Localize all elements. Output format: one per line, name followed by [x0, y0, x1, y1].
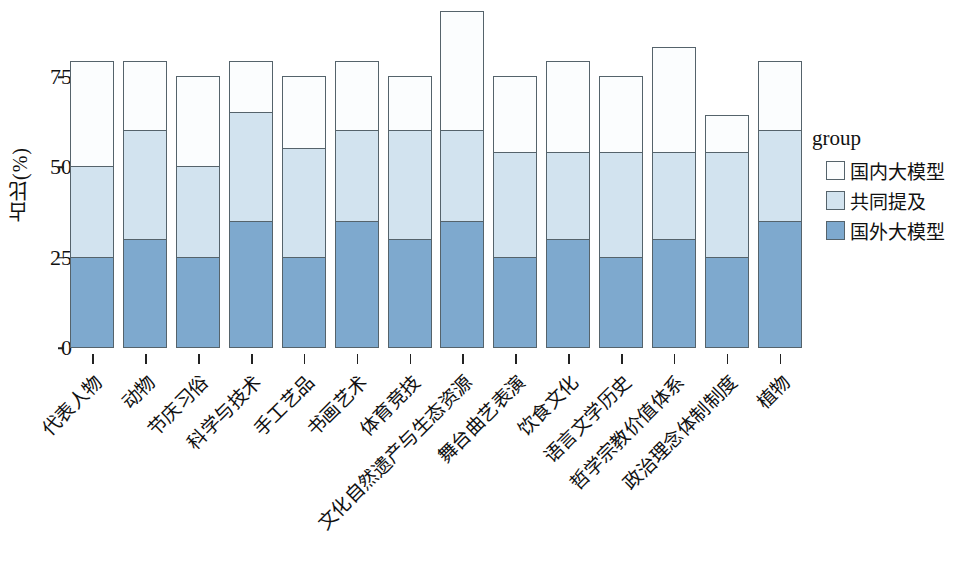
bar-9 [493, 77, 537, 348]
y-axis-tick-mark [58, 347, 64, 349]
bar-segment-domestic-model [282, 76, 326, 150]
bar-segment-foreign-model [440, 220, 484, 348]
y-axis-tick-mark [58, 167, 64, 169]
x-axis-tick-mark [198, 354, 200, 364]
x-axis: 代表人物动物节庆习俗科学与技术手工艺品书画艺术体育竞技文化自然遗产与生态资源舞台… [66, 348, 806, 567]
bar-segment-domestic-model [493, 76, 537, 153]
bar-5 [282, 77, 326, 348]
bar-segment-domestic-model [70, 61, 114, 167]
bar-segment-both-mentioned [388, 130, 432, 240]
bar-8 [440, 12, 484, 348]
bar-7 [388, 77, 432, 348]
y-axis-tick-mark [58, 76, 64, 78]
bar-3 [176, 77, 220, 348]
bar-segment-both-mentioned [758, 130, 802, 222]
legend-item-label: 国内大模型 [850, 157, 945, 184]
legend-item-label: 共同提及 [850, 187, 926, 214]
legend: group 国内大模型共同提及国外大模型 [812, 126, 958, 247]
x-axis-tick-mark [727, 354, 729, 364]
legend-item[interactable]: 国内大模型 [826, 157, 958, 184]
y-axis-tick-mark [58, 257, 64, 259]
bar-segment-domestic-model [388, 76, 432, 132]
bar-segment-both-mentioned [705, 152, 749, 258]
legend-item-list: 国内大模型共同提及国外大模型 [812, 157, 958, 244]
x-axis-tick-mark [674, 354, 676, 364]
bar-segment-foreign-model [546, 238, 590, 348]
bar-segment-domestic-model [176, 76, 220, 168]
legend-item[interactable]: 共同提及 [826, 187, 958, 214]
legend-item[interactable]: 国外大模型 [826, 217, 958, 244]
legend-item-label: 国外大模型 [850, 217, 945, 244]
bar-segment-both-mentioned [123, 130, 167, 240]
y-axis-tick-group: 7550250 [0, 0, 72, 567]
legend-swatch-icon [826, 161, 845, 180]
bar-2 [123, 63, 167, 348]
plot-area [66, 0, 806, 348]
bar-segment-foreign-model [282, 256, 326, 348]
bar-segment-domestic-model [123, 61, 167, 131]
x-axis-tick-mark [568, 354, 570, 364]
bar-segment-both-mentioned [70, 166, 114, 258]
x-axis-tick-mark [304, 354, 306, 364]
bar-segment-both-mentioned [599, 152, 643, 258]
bar-segment-both-mentioned [335, 130, 379, 222]
x-axis-tick-mark [515, 354, 517, 364]
x-axis-label: 植物 [749, 368, 795, 414]
bar-segment-both-mentioned [546, 152, 590, 240]
bar-segment-foreign-model [388, 238, 432, 348]
bar-6 [335, 63, 379, 348]
legend-swatch-icon [826, 221, 845, 240]
x-axis-tick-mark [251, 354, 253, 364]
x-axis-tick-mark [357, 354, 359, 364]
bar-13 [705, 117, 749, 348]
bar-segment-both-mentioned [440, 130, 484, 222]
bar-segment-domestic-model [599, 76, 643, 153]
x-axis-tick-mark [410, 354, 412, 364]
legend-swatch-icon [826, 191, 845, 210]
bar-4 [229, 63, 273, 348]
bar-segment-domestic-model [546, 61, 590, 153]
bar-segment-domestic-model [758, 61, 802, 131]
x-axis-tick-mark [462, 354, 464, 364]
bar-segment-foreign-model [652, 238, 696, 348]
bar-11 [599, 77, 643, 348]
stacked-bar-chart: 占比(%) 7550250 代表人物动物节庆习俗科学与技术手工艺品书画艺术体育竞… [0, 0, 958, 567]
bar-segment-foreign-model [229, 220, 273, 348]
bar-segment-foreign-model [599, 256, 643, 348]
bar-segment-foreign-model [176, 256, 220, 348]
bar-14 [758, 63, 802, 348]
legend-title: group [812, 126, 958, 151]
bar-segment-both-mentioned [282, 148, 326, 258]
bar-segment-both-mentioned [652, 152, 696, 240]
bar-10 [546, 63, 590, 348]
bar-segment-foreign-model [335, 220, 379, 348]
bar-1 [70, 63, 114, 348]
bar-segment-domestic-model [440, 11, 484, 132]
x-axis-tick-mark [145, 354, 147, 364]
bar-segment-domestic-model [229, 61, 273, 113]
bar-segment-foreign-model [493, 256, 537, 348]
x-axis-tick-mark [92, 354, 94, 364]
bar-segment-foreign-model [70, 256, 114, 348]
bar-segment-domestic-model [705, 115, 749, 152]
bar-segment-foreign-model [123, 238, 167, 348]
x-axis-tick-mark [780, 354, 782, 364]
bar-segment-domestic-model [652, 47, 696, 153]
bar-segment-both-mentioned [493, 152, 537, 258]
bar-segment-domestic-model [335, 61, 379, 131]
bar-segment-both-mentioned [229, 112, 273, 222]
bar-segment-both-mentioned [176, 166, 220, 258]
x-axis-tick-mark [621, 354, 623, 364]
bar-segment-foreign-model [705, 256, 749, 348]
bar-segment-foreign-model [758, 220, 802, 348]
bar-12 [652, 48, 696, 348]
